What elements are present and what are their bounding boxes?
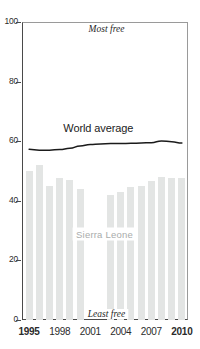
y-tick-mark xyxy=(16,320,21,321)
bar xyxy=(117,192,124,320)
bar xyxy=(127,187,134,320)
bar xyxy=(168,178,175,320)
most-free-label: Most free xyxy=(86,24,128,34)
bar xyxy=(158,177,165,320)
x-tick-label: 2010 xyxy=(171,326,192,337)
chart-container: 020406080100 199519982001200420072010 Mo… xyxy=(0,0,200,349)
bar xyxy=(66,180,73,320)
y-tick-mark xyxy=(16,22,21,23)
x-tick-label: 1995 xyxy=(19,326,40,337)
y-tick-mark xyxy=(16,141,21,142)
bar xyxy=(36,165,43,320)
x-tick-label: 2007 xyxy=(141,326,162,337)
sierra-leone-label: Sierra Leone xyxy=(73,227,136,240)
y-tick-mark xyxy=(16,260,21,261)
bar xyxy=(107,195,114,320)
bar xyxy=(56,178,63,320)
x-tick-label: 2004 xyxy=(110,326,131,337)
bar xyxy=(26,171,33,320)
y-tick-mark xyxy=(16,82,21,83)
x-tick-label: 2001 xyxy=(80,326,101,337)
x-tick-label: 1998 xyxy=(49,326,70,337)
bar xyxy=(178,178,185,320)
least-free-label: Least free xyxy=(85,309,128,319)
bar xyxy=(138,186,145,320)
clipped-glyph xyxy=(64,0,71,7)
bar-series-sierra-leone xyxy=(23,22,188,320)
bar xyxy=(46,186,53,320)
bar xyxy=(148,181,155,320)
world-average-label: World average xyxy=(61,122,135,134)
bar xyxy=(77,189,84,320)
y-tick-mark xyxy=(16,201,21,202)
